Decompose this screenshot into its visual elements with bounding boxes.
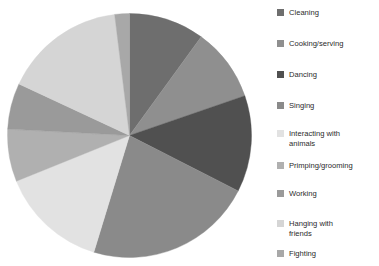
legend-item-label: Fighting [289, 249, 316, 259]
legend-item-label: Primping/grooming [289, 161, 353, 171]
legend-swatch-icon [277, 71, 284, 78]
legend-swatch-icon [277, 40, 284, 47]
legend-item[interactable]: Working [277, 189, 379, 199]
legend-swatch-icon [277, 130, 284, 137]
legend-item-label: Dancing [289, 70, 317, 80]
legend-item-label: Working [289, 189, 317, 199]
pie-plot-area [7, 13, 252, 258]
pie-chart-figure: Behaviors CleaningCooking/servingDancing… [0, 0, 379, 266]
legend-item[interactable]: Singing [277, 101, 379, 111]
legend-item[interactable]: Hanging with friends [277, 219, 379, 239]
legend-item[interactable]: Dancing [277, 70, 379, 80]
legend-item[interactable]: Cleaning [277, 8, 379, 18]
legend-swatch-icon [277, 162, 284, 169]
legend-swatch-icon [277, 9, 284, 16]
legend-item[interactable]: Primping/grooming [277, 161, 379, 171]
chart-legend: CleaningCooking/servingDancingSingingInt… [277, 0, 379, 266]
legend-swatch-icon [277, 250, 284, 257]
legend-item-label: Cooking/serving [289, 39, 343, 49]
pie-svg [7, 13, 252, 258]
legend-item[interactable]: Cooking/serving [277, 39, 379, 49]
legend-item-label: Hanging with friends [289, 219, 333, 239]
legend-swatch-icon [277, 190, 284, 197]
legend-item-label: Singing [289, 101, 314, 111]
legend-item-label: Interacting with animals [289, 129, 340, 149]
legend-item[interactable]: Interacting with animals [277, 129, 379, 149]
legend-item-label: Cleaning [289, 8, 319, 18]
legend-item[interactable]: Fighting [277, 249, 379, 259]
legend-swatch-icon [277, 220, 284, 227]
legend-swatch-icon [277, 102, 284, 109]
